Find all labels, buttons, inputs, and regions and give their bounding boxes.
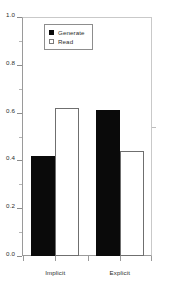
y-tick-label: 1.0 — [6, 12, 15, 18]
y-tick-label: 0.4 — [6, 155, 15, 161]
y-tick-mark — [17, 113, 22, 114]
bar-implicit-read — [55, 108, 79, 256]
y-tick-mark — [19, 232, 22, 233]
x-tick-mark — [88, 256, 89, 261]
x-tick-mark — [120, 256, 121, 261]
chart-legend: Generate Read — [44, 24, 93, 50]
bar-chart-figure: 1.00.80.60.40.20.0 ImplicitExplicit Gene… — [0, 0, 173, 288]
y-tick-label: 0.6 — [6, 108, 15, 114]
legend-label-generate: Generate — [58, 29, 85, 36]
y-tick-label: 0.2 — [6, 203, 15, 209]
y-axis: 1.00.80.60.40.20.0 — [0, 17, 22, 256]
y-tick-mark — [17, 17, 22, 18]
x-tick-mark — [55, 256, 56, 261]
legend-label-read: Read — [58, 38, 73, 45]
x-axis-labels: ImplicitExplicit — [23, 269, 152, 281]
bars-layer — [23, 17, 152, 256]
x-tick-mark — [151, 256, 152, 261]
x-axis-label-implicit: Implicit — [45, 269, 65, 276]
right-edge-tick-mark — [152, 127, 156, 128]
y-tick-mark — [17, 65, 22, 66]
x-axis-label-explicit: Explicit — [110, 269, 130, 276]
y-tick-mark — [19, 137, 22, 138]
legend-item-read: Read — [49, 37, 85, 46]
bar-implicit-generate — [31, 156, 55, 256]
filled-square-icon — [49, 30, 54, 35]
legend-item-generate: Generate — [49, 28, 85, 37]
y-tick-mark — [17, 160, 22, 161]
y-tick-mark — [19, 184, 22, 185]
open-square-icon — [49, 39, 54, 44]
y-tick-label: 0.0 — [6, 251, 15, 257]
y-tick-mark — [17, 256, 22, 257]
y-tick-label: 0.8 — [6, 60, 15, 66]
x-tick-mark — [23, 256, 24, 261]
bar-explicit-read — [120, 151, 144, 256]
y-tick-mark — [19, 89, 22, 90]
bar-explicit-generate — [96, 110, 120, 256]
y-tick-mark — [17, 208, 22, 209]
x-axis-ticks — [23, 256, 152, 262]
y-tick-mark — [19, 41, 22, 42]
